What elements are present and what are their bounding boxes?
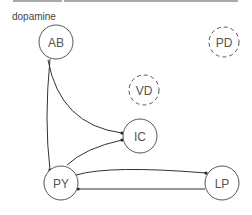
svg-text:LP: LP (215, 177, 230, 191)
svg-text:PY: PY (53, 177, 69, 191)
node-VD[interactable]: VD (129, 75, 159, 105)
node-PD[interactable]: PD (209, 27, 239, 57)
svg-text:PD: PD (216, 36, 233, 50)
svg-text:VD: VD (136, 84, 153, 98)
node-LP[interactable]: LP (205, 166, 239, 200)
node-PY[interactable]: PY (44, 166, 78, 200)
svg-text:IC: IC (134, 130, 146, 144)
edge-AB-PY (47, 59, 50, 170)
edge-AB-IC (48, 60, 122, 133)
edge-PY-LP (76, 169, 206, 175)
node-AB[interactable]: AB (39, 25, 73, 59)
edge-PY-IC (67, 140, 122, 165)
node-IC[interactable]: IC (123, 119, 157, 153)
network-diagram: AB PD VD IC PY LP (0, 0, 252, 215)
svg-text:AB: AB (48, 36, 64, 50)
